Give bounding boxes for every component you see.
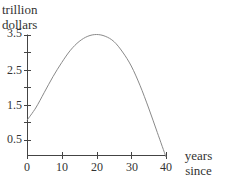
data-line xyxy=(27,35,166,158)
axes xyxy=(24,35,167,160)
plot-area xyxy=(0,0,226,180)
